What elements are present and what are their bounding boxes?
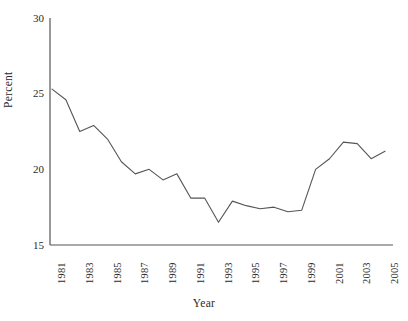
y-axis-title: Percent (2, 71, 14, 108)
axes-group (50, 18, 393, 245)
x-tick-label-1995: 1995 (250, 262, 261, 284)
x-tick-label-1989: 1989 (167, 262, 178, 284)
chart-figure: 30 25 20 15 1981 1983 1985 1987 1989 199… (0, 0, 408, 321)
x-tick-label-2001: 2001 (334, 262, 345, 284)
x-tick-label-1985: 1985 (112, 262, 123, 284)
x-tick-label-2005: 2005 (389, 262, 400, 284)
x-tick-label-1997: 1997 (278, 262, 289, 284)
x-tick-label-1987: 1987 (139, 262, 150, 284)
y-tick-label-30: 30 (22, 13, 44, 24)
x-tick-label-1993: 1993 (223, 262, 234, 284)
y-tick-label-20: 20 (22, 164, 44, 175)
y-tick-label-15: 15 (22, 240, 44, 251)
x-tick-label-1981: 1981 (56, 262, 67, 284)
x-tick-label-1999: 1999 (306, 262, 317, 284)
x-tick-label-2003: 2003 (361, 262, 372, 284)
x-tick-label-1991: 1991 (195, 262, 206, 284)
x-tick-label-1983: 1983 (84, 262, 95, 284)
y-tick-label-25: 25 (22, 88, 44, 99)
series-line-percent (52, 89, 385, 222)
x-axis-title: Year (0, 297, 408, 309)
data-series-group (52, 89, 385, 222)
